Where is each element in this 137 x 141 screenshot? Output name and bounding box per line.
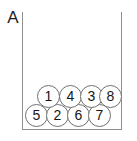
container-box: 52671438	[22, 12, 122, 130]
figure-panel: A 52671438	[0, 0, 137, 141]
packed-circle-4: 4	[59, 85, 82, 108]
panel-label-a: A	[5, 8, 21, 28]
packed-circle-8: 8	[99, 85, 122, 108]
packed-circle-1: 1	[37, 85, 60, 108]
circle-packing-area: 52671438	[23, 12, 121, 129]
